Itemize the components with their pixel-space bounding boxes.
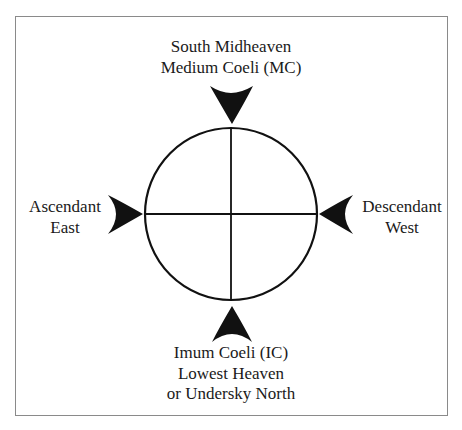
descendant-label-line-1: Descendant: [352, 197, 452, 218]
midheaven-label-line-1: South Midheaven: [131, 37, 331, 58]
midheaven-label: South Midheaven Medium Coeli (MC): [131, 37, 331, 78]
imum-coeli-label-line-2: Lowest Heaven: [131, 364, 331, 385]
imum-coeli-label-line-1: Imum Coeli (IC): [131, 343, 331, 364]
ascendant-label-line-2: East: [15, 218, 115, 239]
ic-arrow-up-icon: [212, 306, 252, 342]
mc-arrow-down-icon: [210, 86, 253, 124]
ascendant-label-line-1: Ascendant: [15, 197, 115, 218]
imum-coeli-label-line-3: or Undersky North: [131, 384, 331, 405]
descendant-arrow-left-icon: [319, 195, 353, 234]
ascendant-label: Ascendant East: [15, 197, 115, 238]
descendant-label-line-2: West: [352, 218, 452, 239]
imum-coeli-label: Imum Coeli (IC) Lowest Heaven or Undersk…: [131, 343, 331, 405]
midheaven-label-line-2: Medium Coeli (MC): [131, 58, 331, 79]
descendant-label: Descendant West: [352, 197, 452, 238]
